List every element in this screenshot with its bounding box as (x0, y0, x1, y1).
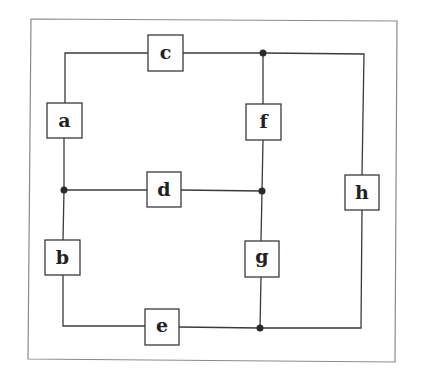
component-a: a (47, 103, 82, 138)
wire-f-to-mid (262, 140, 263, 191)
component-c: c (148, 35, 183, 71)
component-label: g (255, 245, 268, 267)
component-b: b (45, 240, 80, 275)
component-label: e (156, 314, 168, 336)
junction-dot (259, 188, 266, 195)
wire-d-to-mid-right (181, 190, 262, 191)
component-g: g (245, 241, 279, 277)
component-d: d (147, 172, 181, 207)
wires (63, 53, 364, 328)
wire-mid-to-b (63, 190, 64, 240)
component-label: d (157, 178, 170, 200)
component-h: h (345, 175, 379, 210)
wire-g-to-bottom (260, 277, 261, 328)
wire-e-to-junction (179, 327, 260, 328)
network-diagram: c a f d h b g e (0, 0, 422, 384)
component-label: b (56, 246, 69, 268)
component-label: a (58, 109, 70, 131)
component-label: c (160, 41, 172, 63)
junction-dot (257, 325, 264, 332)
component-label: h (355, 181, 369, 203)
wire-mid-to-g (261, 191, 262, 241)
component-e: e (145, 309, 179, 345)
wire-b-to-e (63, 275, 145, 326)
junction-dot (61, 187, 68, 194)
wire-top (65, 53, 148, 103)
junction-dot (260, 50, 267, 57)
component-f: f (246, 104, 281, 140)
